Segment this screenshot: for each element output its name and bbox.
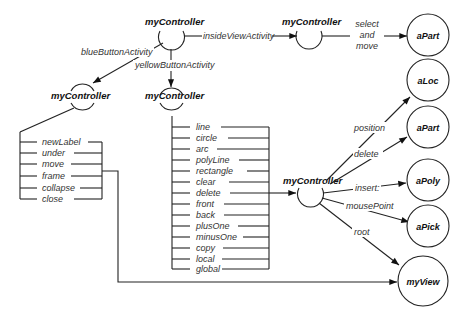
edge-inside-view-label: insideViewActivity	[203, 31, 275, 41]
blue-menu-item[interactable]: move	[20, 159, 102, 169]
svg-text:back: back	[196, 210, 216, 220]
blue-menu-item[interactable]: frame	[20, 171, 102, 181]
inside-controller: myController	[282, 16, 342, 49]
svg-text:front: front	[196, 199, 215, 209]
svg-text:arc: arc	[196, 144, 209, 154]
blue-menu-item[interactable]: under	[20, 148, 102, 158]
svg-text:polyLine: polyLine	[195, 155, 230, 165]
edge-insert-label: insert:	[355, 183, 380, 193]
object-apart-mid: aPart	[407, 106, 449, 148]
yellow-menu-item[interactable]: line	[172, 122, 269, 132]
edge-delete-label: delete	[354, 149, 379, 159]
svg-text:line: line	[196, 122, 210, 132]
edge-blue-button-label: blueButtonActivity	[81, 47, 153, 57]
svg-text:clear: clear	[196, 177, 217, 187]
yellow-menu-item[interactable]: polyLine	[172, 155, 269, 165]
svg-text:rectangle: rectangle	[196, 166, 233, 176]
yellow-menu-item[interactable]: minusOne	[172, 232, 269, 242]
edge-and-label: and	[359, 30, 375, 40]
yellow-menu-item[interactable]: back	[172, 210, 269, 220]
inside-controller-label: myController	[282, 16, 342, 27]
blue-menu-item[interactable]: newLabel	[20, 137, 102, 147]
svg-text:collapse: collapse	[42, 183, 75, 193]
svg-text:minusOne: minusOne	[196, 232, 237, 242]
svg-text:aLoc: aLoc	[417, 76, 438, 86]
yellow-menu-item[interactable]: delete	[172, 188, 269, 198]
edge-root: root	[319, 203, 399, 265]
yellow-menu-item[interactable]: global	[172, 264, 269, 274]
svg-text:newLabel: newLabel	[42, 137, 82, 147]
inside-controller-arc	[296, 31, 322, 49]
yellow-menu-item[interactable]: copy	[172, 243, 269, 253]
yellow-menu-item[interactable]: circle	[172, 133, 269, 143]
editor-controller: myController	[283, 175, 343, 207]
svg-text:aPick: aPick	[416, 222, 441, 232]
svg-text:copy: copy	[196, 243, 216, 253]
svg-text:close: close	[42, 194, 63, 204]
edge-root-label: root	[354, 227, 370, 237]
object-apart-top: aPart	[407, 14, 449, 56]
svg-text:aPart: aPart	[417, 31, 441, 41]
svg-text:local: local	[196, 254, 216, 264]
blue-menu-item[interactable]: collapse	[20, 183, 102, 193]
svg-text:aPart: aPart	[417, 123, 441, 133]
svg-text:move: move	[42, 159, 64, 169]
yellow-menu-item[interactable]: front	[172, 199, 269, 209]
controller-diagram: myController insideViewActivity myContro…	[0, 0, 465, 318]
yellow-menu-item[interactable]: local	[172, 254, 269, 264]
yellow-controller-label: myController	[145, 90, 205, 101]
object-apick: aPick	[407, 205, 449, 247]
yellow-menu-item[interactable]: clear	[172, 177, 269, 187]
svg-text:delete: delete	[196, 188, 221, 198]
svg-text:aPoly: aPoly	[416, 176, 441, 186]
top-controller-label: myController	[145, 16, 205, 27]
edge-inside-view: insideViewActivity	[184, 31, 297, 41]
edge-mouse-point: mousePoint	[322, 198, 409, 222]
editor-controller-arc	[298, 188, 324, 207]
svg-text:frame: frame	[42, 171, 65, 181]
yellow-menu-item[interactable]: rectangle	[172, 166, 269, 176]
edge-position-label: position	[353, 123, 385, 133]
edge-position: position	[327, 97, 410, 180]
yellow-controller-arc-bottom	[160, 103, 183, 110]
object-apoly: aPoly	[407, 159, 449, 201]
yellow-menu-item[interactable]: arc	[172, 144, 269, 154]
yellow-menu: line circle arc polyLine rectangle clear	[172, 122, 269, 274]
object-aloc: aLoc	[407, 59, 449, 101]
object-myview: myView	[398, 256, 448, 306]
blue-controller-arc-bottom	[71, 103, 94, 110]
blue-controller: myController	[20, 84, 111, 132]
yellow-menu-item[interactable]: plusOne	[172, 221, 269, 231]
svg-text:under: under	[42, 148, 66, 158]
top-controller: myController	[145, 16, 205, 50]
edge-select-label: select	[355, 19, 379, 29]
edge-yellow-button-label: yellowButtonActivity	[134, 60, 215, 70]
svg-text:myView: myView	[406, 277, 440, 287]
editor-controller-label: myController	[283, 175, 343, 186]
edge-mouse-point-label: mousePoint	[346, 201, 394, 211]
blue-menu-item[interactable]: close	[20, 194, 102, 204]
blue-menu: newLabel under move frame collapse close	[20, 132, 102, 204]
edge-move-label: move	[356, 41, 378, 51]
top-controller-arc	[159, 31, 185, 50]
edge-delete: delete	[330, 137, 407, 184]
svg-text:circle: circle	[196, 133, 217, 143]
svg-text:plusOne: plusOne	[195, 221, 230, 231]
blue-controller-label: myController	[51, 90, 111, 101]
svg-text:global: global	[196, 264, 221, 274]
